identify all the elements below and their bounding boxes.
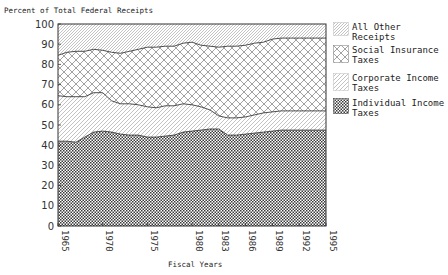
crosshatch-swatch-icon (333, 45, 349, 63)
y-tick-label: 70 (41, 79, 54, 90)
legend-item-social-insurance: Social Insurance Taxes (333, 45, 439, 65)
legend-label: Social Insurance Taxes (352, 45, 439, 65)
y-tick-label: 30 (41, 160, 54, 171)
x-tick-label: 1992 (301, 230, 311, 252)
y-tick-label: 60 (41, 99, 54, 110)
light-diagonal-swatch-icon (333, 73, 349, 91)
area-layers (58, 24, 326, 226)
x-tick-label: 1965 (60, 230, 70, 252)
legend-item-all-other: All Other Receipts (333, 22, 448, 42)
y-tick-label: 0 (48, 221, 54, 232)
legend-item-individual-income: Individual Income Taxes (333, 98, 444, 118)
area-individual-income-taxes (58, 129, 326, 226)
y-tick-label: 50 (41, 120, 54, 131)
fine-diagonal-swatch-icon (333, 22, 349, 36)
x-tick-label: 1980 (194, 230, 204, 252)
legend-label: All Other Receipts (352, 22, 448, 42)
y-tick-label: 40 (41, 140, 54, 151)
y-tick-label: 20 (41, 180, 54, 191)
x-axis-ticks: 196519701975198019831986198919921995 (58, 223, 338, 252)
y-tick-label: 100 (35, 19, 54, 30)
y-axis-ticks: 0102030405060708090100 (35, 19, 61, 232)
x-tick-label: 1989 (274, 230, 284, 252)
x-tick-label: 1983 (220, 230, 230, 252)
x-tick-label: 1975 (149, 230, 159, 252)
legend-label: Corporate Income Taxes (352, 73, 439, 93)
x-tick-label: 1970 (104, 230, 114, 252)
y-tick-label: 90 (41, 39, 54, 50)
legend-label: Individual Income Taxes (352, 98, 444, 118)
x-tick-label: 1986 (247, 230, 257, 252)
y-tick-label: 10 (41, 200, 54, 211)
y-tick-label: 80 (41, 59, 54, 70)
dense-checker-swatch-icon (333, 98, 349, 114)
legend-item-corporate-income: Corporate Income Taxes (333, 73, 439, 93)
x-tick-label: 1995 (328, 230, 338, 252)
